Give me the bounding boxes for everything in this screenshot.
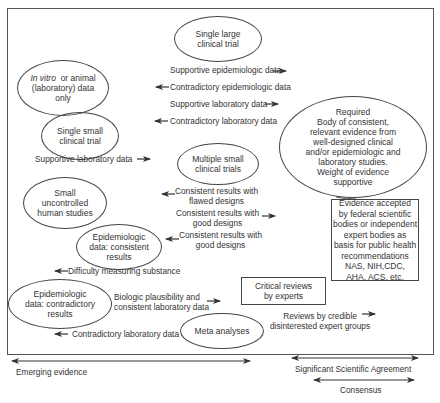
label-emerging-evidence: Emerging evidence: [16, 367, 87, 377]
arrows-layer: [0, 0, 440, 403]
label-significant-agreement: Significant Scientific Agreement: [295, 364, 411, 374]
label-consensus: Consensus: [340, 385, 382, 395]
